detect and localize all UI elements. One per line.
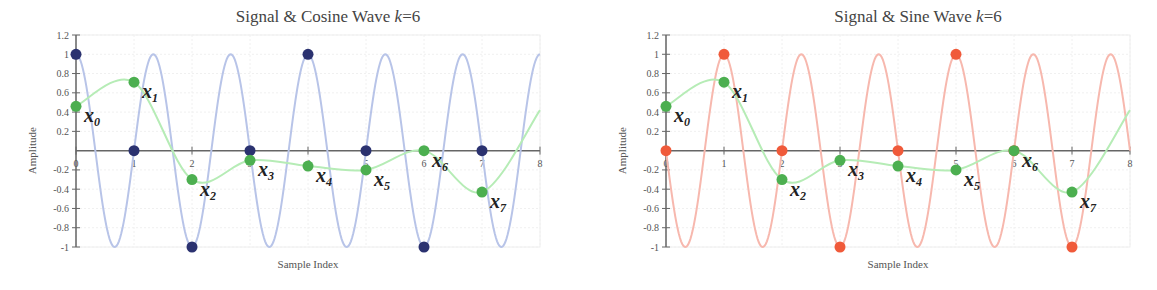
- cosine-sample-point: [303, 49, 314, 60]
- label-subscript: 3: [267, 169, 274, 183]
- title-eq: =6: [402, 7, 420, 26]
- label-var: x: [199, 178, 210, 200]
- label-subscript: 2: [209, 189, 216, 203]
- cosine-sample-point: [361, 145, 372, 156]
- signal-point: [719, 77, 730, 88]
- signal-point: [419, 145, 430, 156]
- label-var: x: [373, 168, 384, 190]
- label-subscript: 7: [500, 201, 507, 215]
- label-var: x: [257, 158, 268, 180]
- label-subscript: 5: [384, 179, 390, 193]
- label-subscript: 1: [152, 91, 158, 105]
- cosine-chart: Signal & Cosine Wave k=6-1-0.8-0.6-0.4-0…: [0, 0, 578, 290]
- x-tick-label: 7: [1070, 158, 1075, 169]
- signal-point-label: x6: [431, 149, 448, 174]
- title-text: Signal & Cosine Wave: [236, 7, 395, 26]
- y-tick-label: 0.8: [647, 68, 660, 79]
- y-tick-label: -0.6: [53, 203, 69, 214]
- signal-point-label: x7: [1079, 190, 1097, 215]
- label-var: x: [673, 104, 684, 126]
- sine-sample-point: [1067, 242, 1078, 253]
- label-var: x: [83, 104, 94, 126]
- signal-point: [1009, 145, 1020, 156]
- label-var: x: [1079, 190, 1090, 212]
- x-tick-label: 6: [422, 158, 427, 169]
- label-subscript: 6: [442, 160, 448, 174]
- cosine-sample-point: [477, 145, 488, 156]
- signal-point-label: x6: [1021, 149, 1038, 174]
- sine-sample-point: [719, 49, 730, 60]
- y-tick-label: -0.2: [643, 164, 659, 175]
- y-tick-label: 0.2: [647, 126, 660, 137]
- label-subscript: 0: [684, 115, 690, 129]
- x-tick-label: 0: [74, 158, 79, 169]
- label-var: x: [141, 80, 152, 102]
- label-subscript: 1: [742, 91, 748, 105]
- x-axis-label: Sample Index: [868, 258, 929, 270]
- cosine-sample-point: [419, 242, 430, 253]
- y-tick-label: -0.8: [643, 222, 659, 233]
- signal-point: [777, 174, 788, 185]
- y-tick-label: -0.4: [53, 184, 69, 195]
- x-tick-label: 2: [190, 158, 195, 169]
- label-subscript: 4: [325, 175, 332, 189]
- label-subscript: 5: [974, 179, 980, 193]
- signal-point-label: x1: [141, 80, 158, 105]
- signal-point: [951, 164, 962, 175]
- y-axis-label: Amplitude: [616, 127, 628, 174]
- cosine-sample-point: [71, 49, 82, 60]
- signal-point-label: x2: [789, 178, 806, 203]
- label-var: x: [905, 164, 916, 186]
- signal-point-label: x5: [373, 168, 390, 193]
- label-subscript: 0: [94, 115, 100, 129]
- y-tick-label: -0.4: [643, 184, 659, 195]
- label-var: x: [963, 168, 974, 190]
- signal-point-label: x0: [83, 104, 100, 129]
- label-var: x: [1021, 149, 1032, 171]
- title-text: Signal & Sine Wave: [834, 7, 976, 26]
- y-tick-label: 0.4: [647, 107, 660, 118]
- label-subscript: 2: [799, 189, 806, 203]
- signal-point: [1067, 187, 1078, 198]
- cosine-sample-point: [187, 242, 198, 253]
- label-subscript: 4: [915, 175, 922, 189]
- label-subscript: 7: [1090, 201, 1097, 215]
- chart-title: Signal & Sine Wave k=6: [834, 7, 1002, 26]
- sine-chart-svg: Signal & Sine Wave k=6-1-0.8-0.6-0.4-0.2…: [590, 0, 1157, 290]
- label-var: x: [315, 164, 326, 186]
- x-tick-label: 8: [538, 158, 543, 169]
- sine-sample-point: [893, 145, 904, 156]
- y-tick-label: -0.6: [643, 203, 659, 214]
- y-tick-label: 0.6: [647, 87, 660, 98]
- y-tick-label: -1: [651, 242, 659, 253]
- signal-point: [661, 101, 672, 112]
- y-axis-label: Amplitude: [26, 127, 38, 174]
- cosine-sample-point: [129, 145, 140, 156]
- y-tick-label: 1: [654, 49, 659, 60]
- sine-sample-point: [951, 49, 962, 60]
- y-tick-label: 1.2: [647, 30, 660, 41]
- signal-point: [893, 161, 904, 172]
- signal-point-label: x7: [489, 190, 507, 215]
- y-tick-label: 0.6: [57, 87, 70, 98]
- label-var: x: [731, 80, 742, 102]
- signal-point: [303, 161, 314, 172]
- signal-point: [361, 164, 372, 175]
- cosine-chart-svg: Signal & Cosine Wave k=6-1-0.8-0.6-0.4-0…: [0, 0, 578, 290]
- y-tick-label: -0.2: [53, 164, 69, 175]
- signal-point-label: x3: [257, 158, 274, 183]
- x-tick-label: 8: [1128, 158, 1133, 169]
- signal-point-label: x1: [731, 80, 748, 105]
- title-eq: =6: [984, 7, 1002, 26]
- signal-point: [129, 77, 140, 88]
- chart-title: Signal & Cosine Wave k=6: [236, 7, 421, 26]
- signal-point: [245, 155, 256, 166]
- cosine-sample-point: [245, 145, 256, 156]
- y-tick-label: 1: [64, 49, 69, 60]
- signal-point: [477, 187, 488, 198]
- y-tick-label: -1: [61, 242, 69, 253]
- label-var: x: [789, 178, 800, 200]
- y-tick-label: 0.2: [57, 126, 70, 137]
- sine-sample-point: [661, 145, 672, 156]
- signal-point-label: x2: [199, 178, 216, 203]
